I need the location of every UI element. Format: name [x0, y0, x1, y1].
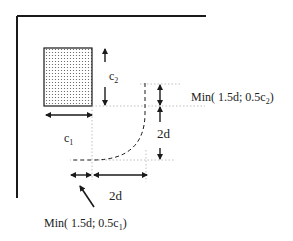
pointer-arrow	[80, 186, 94, 207]
min-c2-label: Min( 1.5d; 0.5c2)	[191, 90, 274, 106]
c1-label: c1	[64, 131, 73, 147]
slab-edge	[17, 16, 206, 198]
bottom-2d-label: 2d	[109, 188, 123, 203]
diagram-canvas: c2 c1 2d Min( 1.5d; 0.5c2) 2d Min( 1.5d;…	[0, 0, 293, 241]
column	[44, 48, 92, 106]
min-c1-label: Min( 1.5d; 0.5c1)	[44, 216, 127, 232]
c2-label: c2	[109, 69, 118, 85]
guide-lines	[92, 84, 205, 182]
right-2d-label: 2d	[157, 126, 171, 141]
